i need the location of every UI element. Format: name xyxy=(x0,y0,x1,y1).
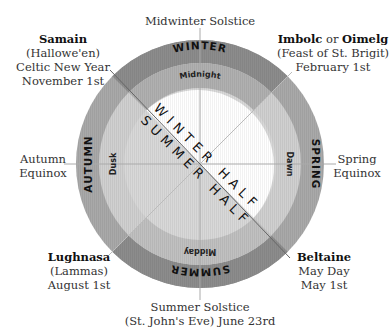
label-imbolc: Imbolc or Oimelg (Feast of St. Brigit) F… xyxy=(277,32,389,74)
season-autumn: AUTUMN xyxy=(82,135,94,192)
time-dusk: Dusk xyxy=(109,152,118,175)
label-lughnasa: Lughnasa (Lammas) August 1st xyxy=(44,250,114,292)
label-autumn-equinox: Autumn Equinox xyxy=(18,152,68,180)
label-beltaine: Beltaine May Day May 1st xyxy=(289,250,359,292)
label-summer-solstice: Summer Solstice (St. John's Eve) June 23… xyxy=(110,300,290,328)
time-midday: Midday xyxy=(183,247,216,256)
time-dawn: Dawn xyxy=(285,151,294,176)
label-spring-equinox: Spring Equinox xyxy=(330,152,384,180)
season-spring: SPRING xyxy=(310,139,322,190)
label-samain: Samain (Hallowe'en) Celtic New Year Nove… xyxy=(8,32,118,88)
label-midwinter-solstice: Midwinter Solstice xyxy=(140,14,260,28)
